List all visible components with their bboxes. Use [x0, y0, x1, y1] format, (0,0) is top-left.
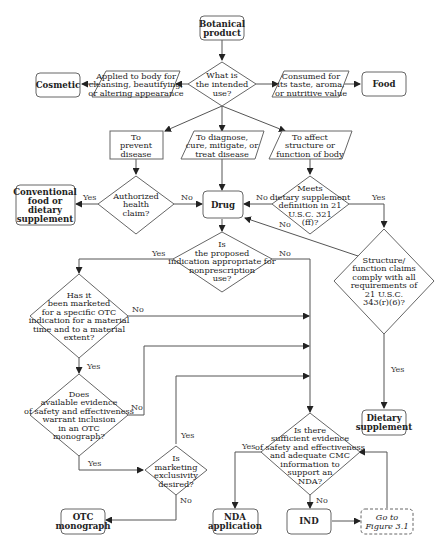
node-text-botanical: product — [203, 28, 241, 38]
label-yes-meets-ds: Yes — [371, 193, 385, 202]
label-no-exclusivity: No — [180, 496, 192, 505]
node-text-food: Food — [372, 79, 395, 89]
label-yes-exclusivity: Yes — [180, 431, 194, 440]
node-text-health-claim: claim? — [123, 208, 150, 218]
label-no-health: No — [181, 193, 193, 202]
node-text-prevent: disease — [121, 149, 152, 159]
node-text-exclusivity: desired? — [158, 479, 193, 489]
node-text-cosmetic-use: or altering appearance — [88, 88, 183, 98]
label-yes-structure: Yes — [390, 365, 404, 374]
node-text-marketed-otc: extent? — [64, 332, 95, 342]
label-yes-health: Yes — [82, 193, 96, 202]
label-yes-nonrx: Yes — [151, 249, 165, 258]
node-text-conventional: supplement — [17, 214, 74, 224]
node-text-affect: function of body — [276, 149, 344, 159]
edge-labels: Yes No No Yes No Yes No No Yes Yes No Ye… — [82, 193, 404, 505]
node-text-otc-monograph: monograph — [55, 521, 111, 531]
node-text-goto: Figure 3.1 — [364, 521, 408, 531]
label-yes-evidence: Yes — [87, 459, 101, 468]
label-yes-marketed: Yes — [86, 362, 100, 371]
node-text-sufficient-nda: NDA? — [298, 476, 322, 486]
label-no-nonrx: No — [279, 249, 291, 258]
node-text-intended-use: use? — [213, 88, 232, 98]
node-text-evidence-otc: monograph? — [53, 431, 105, 441]
node-text-diagnose: treat disease — [195, 149, 249, 159]
label-no-evidence: No — [131, 403, 143, 412]
node-text-meets-ds: (ff)? — [302, 217, 319, 227]
flowchart-canvas: BotanicalproductWhat isthe intendeduse?A… — [0, 0, 448, 549]
label-yes-sufficient: Yes — [241, 442, 255, 451]
label-no-structure: No — [279, 220, 291, 229]
node-text-ind: IND — [299, 516, 319, 526]
label-no-sufficient: No — [316, 496, 328, 505]
label-no-meets-ds: No — [256, 193, 268, 202]
node-text-food-use: or nutritive value — [275, 88, 347, 98]
label-no-marketed: No — [132, 305, 144, 314]
node-text-cosmetic: Cosmetic — [36, 80, 80, 90]
node-text-drug: Drug — [211, 200, 235, 210]
node-text-structure-claims: 343(r)(6)? — [363, 297, 405, 307]
node-text-nonrx: use? — [213, 273, 232, 283]
node-text-dietary-supplement: supplement — [356, 422, 413, 432]
node-text-nda-application: application — [208, 521, 263, 531]
